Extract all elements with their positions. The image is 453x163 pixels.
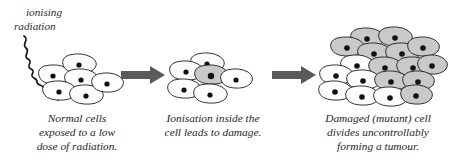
cell-normal — [194, 84, 228, 103]
caption-line: dose of radiation. — [37, 140, 118, 152]
nucleus-damaged — [208, 73, 214, 79]
nucleus — [359, 94, 365, 100]
caption-line: Normal cells — [47, 112, 107, 124]
caption-line: divides uncontrollably — [327, 126, 430, 138]
stage-normal-cluster — [39, 54, 124, 104]
nucleus — [388, 79, 394, 85]
nucleus — [410, 65, 416, 71]
arrow-2 — [272, 66, 316, 84]
caption-line: Damaged (mutant) cell — [324, 112, 431, 125]
nucleus — [78, 77, 83, 82]
nucleus — [429, 63, 435, 69]
nucleus — [333, 73, 339, 79]
nucleus — [392, 35, 398, 41]
nucleus — [344, 45, 350, 51]
radiation-label-line2: radiation — [14, 20, 56, 32]
caption-stage-tumour: Damaged (mutant) cell divides uncontroll… — [324, 112, 431, 152]
nucleus — [332, 89, 338, 95]
nucleus — [360, 78, 366, 84]
cell-damaged — [401, 85, 433, 104]
nucleus — [354, 63, 360, 69]
cell-damaged — [408, 37, 440, 56]
nucleus — [207, 92, 212, 97]
caption-stage-ionisation: Ionisation inside the cell leads to dama… — [165, 112, 262, 138]
stage-tumour-cluster — [319, 27, 448, 106]
caption-line: cell leads to damage. — [165, 126, 262, 138]
caption-line: forming a tumour. — [337, 140, 419, 152]
stage-ionisation-cluster — [168, 53, 253, 103]
diagram-canvas: ionising radiation — [0, 0, 453, 163]
caption-line: exposed to a low — [39, 126, 116, 138]
nucleus — [181, 87, 186, 92]
radiation-label-line1: ionising — [26, 6, 62, 18]
nucleus — [56, 89, 61, 94]
nucleus — [387, 95, 393, 101]
nucleus — [399, 51, 405, 57]
nucleus — [183, 69, 188, 74]
arrow-1 — [121, 66, 165, 84]
caption-stage-normal: Normal cells exposed to a low dose of ra… — [37, 112, 118, 152]
nucleus — [50, 73, 55, 78]
caption-line: Ionisation inside the — [165, 112, 259, 124]
nucleus — [420, 45, 426, 51]
nucleus — [233, 77, 238, 82]
nucleus — [382, 65, 388, 71]
nucleus — [104, 81, 109, 86]
nucleus — [371, 51, 377, 57]
nucleus — [415, 79, 421, 85]
nucleus — [83, 93, 88, 98]
radiation-cell-damage-diagram: ionising radiation — [0, 0, 453, 163]
nucleus — [413, 93, 419, 99]
cell-normal — [92, 73, 124, 92]
nucleus — [76, 62, 81, 67]
nucleus — [364, 36, 370, 42]
cell-normal — [221, 69, 253, 88]
